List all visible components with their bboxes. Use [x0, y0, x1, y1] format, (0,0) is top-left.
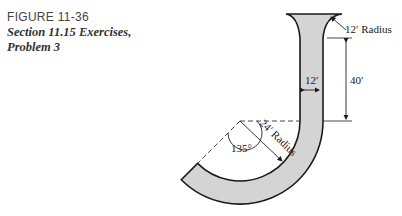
height-label: 40′ [350, 74, 363, 86]
j-channel-diagram: 12′ Radius 12′ 40′ 135° 24′ Radius [0, 0, 402, 216]
channel-shape [181, 14, 342, 204]
top-radius-arrow [331, 17, 346, 30]
bend-radius-label: 24′ Radius [258, 117, 300, 158]
angle-label: 135° [231, 142, 252, 154]
top-radius-label: 12′ Radius [345, 23, 392, 35]
width-label: 12′ [305, 74, 318, 86]
